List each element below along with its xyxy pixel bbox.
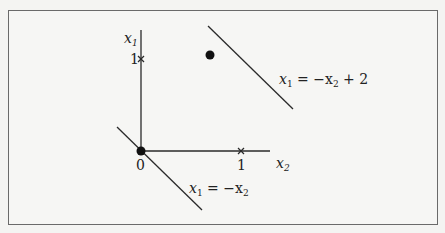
y-tick-label: 1 — [130, 51, 139, 67]
origin-point — [137, 147, 146, 156]
vertical-axis-label: x1 — [124, 30, 138, 48]
upper-line-point — [206, 51, 215, 60]
upper-line-equation: x1 = −x2 + 2 — [279, 71, 368, 89]
horizontal-axis-label: x2 — [276, 155, 290, 173]
x-tick-label: 1 — [237, 157, 246, 173]
origin-label: 0 — [136, 157, 145, 173]
lower-line-equation: x1 = −x2 — [189, 180, 249, 198]
diagram-canvas: x1 1 0 1 x2 x1 = −x2 + 2 x1 = −x2 — [0, 0, 445, 233]
upper-line — [208, 26, 293, 109]
lower-line — [117, 127, 202, 210]
